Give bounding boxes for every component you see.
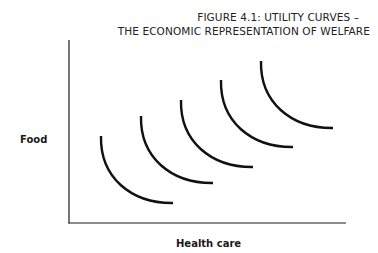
utility-curve-1: [101, 136, 173, 203]
utility-curve-4: [221, 80, 293, 147]
utility-curve-5: [261, 61, 333, 128]
y-axis-label: Food: [20, 134, 47, 145]
x-axis-label: Health care: [176, 238, 241, 249]
utility-curves: [101, 61, 333, 203]
utility-curves-diagram: [0, 0, 378, 253]
utility-curve-3: [181, 100, 253, 167]
